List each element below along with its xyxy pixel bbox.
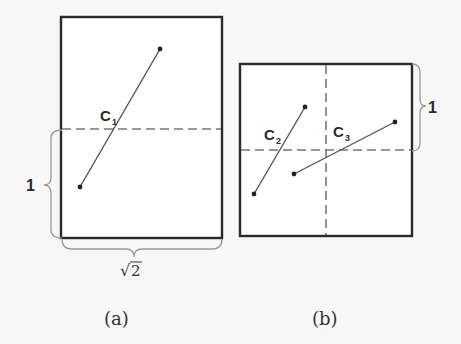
panel-a-width-brace: [62, 239, 222, 257]
label-c3-subscript: 3: [345, 133, 350, 143]
panel-a-width-value: 2: [131, 262, 141, 280]
segment-c2-endpoint-bottom: [252, 192, 257, 197]
segment-c3-endpoint-right: [393, 120, 398, 125]
caption-a: (a): [104, 308, 129, 329]
segment-c2-endpoint-top: [303, 105, 308, 110]
panel-b-height-brace: [412, 64, 426, 151]
panel-a-width-radical: √: [120, 261, 131, 280]
label-c2: C: [264, 126, 275, 143]
panel-a: C 1 1 √ 2 (a): [26, 17, 222, 329]
panel-a-frame: [61, 17, 222, 238]
panel-a-height-brace: [44, 130, 62, 238]
panel-b: C 2 C 3 1 (b): [240, 64, 437, 329]
panel-b-height-label: 1: [428, 99, 437, 116]
label-c1-subscript: 1: [112, 117, 117, 127]
segment-c1-endpoint-bottom: [78, 185, 83, 190]
figure: C 1 1 √ 2 (a) C 2 C 3 1 (b): [0, 0, 461, 344]
label-c3: C: [333, 123, 344, 140]
panel-a-height-label: 1: [26, 177, 35, 194]
segment-c3-endpoint-left: [292, 172, 297, 177]
caption-b: (b): [312, 308, 338, 329]
label-c1: C: [100, 107, 111, 124]
segment-c1-endpoint-top: [158, 47, 163, 52]
label-c2-subscript: 2: [276, 136, 281, 146]
